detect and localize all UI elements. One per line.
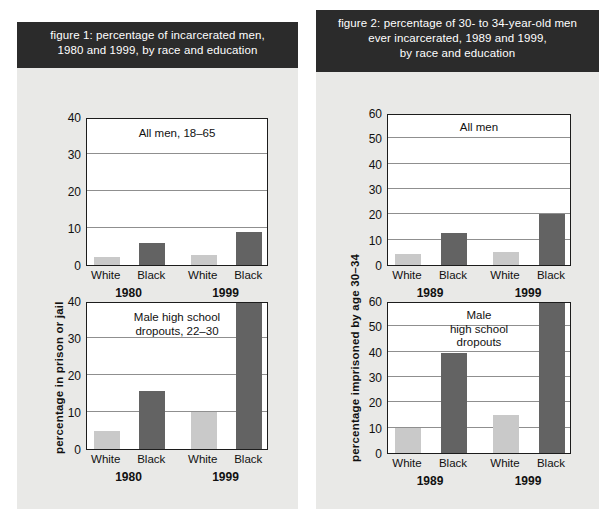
bar-black-1999 — [539, 214, 565, 265]
x-group-label: 1999 — [493, 286, 563, 300]
bar-black-1980 — [139, 391, 165, 449]
bar-black-1999 — [539, 302, 565, 453]
bar-black-1989 — [441, 233, 467, 265]
plot-area-figure-1-top: All men, 18–65 — [86, 118, 268, 266]
plot-caption-figure-2-top: All men — [388, 121, 570, 135]
gridline — [87, 153, 267, 154]
y-tick-label: 60 — [369, 295, 382, 309]
plot-area-figure-2-bottom: Malehigh schooldropouts — [387, 302, 571, 454]
chart-figure-2-bottom: Malehigh schooldropouts0102030405060Whit… — [387, 302, 571, 454]
bar-black-1989 — [441, 353, 467, 453]
y-tick-label: 10 — [68, 406, 81, 420]
y-axis-label-2: percentage imprisoned by age 30–34 — [349, 254, 361, 462]
figure-title-line: figure 2: percentage of 30- to 34-year-o… — [324, 16, 591, 31]
figure-panel-1: figure 1: percentage of incarcerated men… — [17, 22, 298, 509]
x-group-label: 1999 — [191, 286, 261, 300]
x-group-label: 1999 — [191, 470, 261, 484]
y-tick-label: 60 — [369, 107, 382, 121]
x-category-label: Black — [521, 457, 581, 469]
bar-white-1999 — [191, 412, 217, 449]
figure-title-line: 1980 and 1999, by race and education — [25, 43, 290, 58]
figure-title-line: ever incarcerated, 1989 and 1999, — [324, 31, 591, 46]
x-group-label: 1989 — [395, 286, 465, 300]
y-tick-label: 30 — [68, 148, 81, 162]
bar-black-1999 — [236, 302, 262, 449]
x-group-label: 1980 — [94, 286, 164, 300]
y-tick-label: 10 — [369, 234, 382, 248]
y-tick-label: 10 — [68, 222, 81, 236]
bar-white-1989 — [395, 428, 421, 453]
bar-white-1999 — [493, 415, 519, 453]
y-tick-label: 20 — [68, 369, 81, 383]
bar-white-1999 — [493, 252, 519, 265]
y-tick-label: 40 — [68, 295, 81, 309]
figures-page: figure 1: percentage of incarcerated men… — [0, 0, 611, 524]
y-axis-label-1: percentage in prison or jail — [53, 301, 65, 454]
bar-white-1989 — [395, 254, 421, 265]
y-tick-label: 50 — [369, 132, 382, 146]
gridline — [388, 163, 570, 164]
y-tick-label: 30 — [369, 183, 382, 197]
bar-white-1980 — [94, 431, 120, 450]
y-tick-label: 20 — [369, 208, 382, 222]
figure-title-line: figure 1: percentage of incarcerated men… — [25, 28, 290, 43]
y-tick-label: 40 — [369, 158, 382, 172]
chart-figure-2-top: All men0102030405060WhiteBlackWhiteBlack… — [387, 114, 571, 266]
bar-white-1999 — [191, 255, 217, 265]
y-tick-label: 50 — [369, 320, 382, 334]
x-category-label: Black — [423, 457, 483, 469]
x-category-label: Black — [218, 453, 278, 465]
x-group-label: 1989 — [395, 474, 465, 488]
plot-area-figure-1-bottom: Male high schooldropouts, 22–30 — [86, 302, 268, 450]
y-tick-label: 20 — [68, 185, 81, 199]
y-tick-label: 30 — [369, 371, 382, 385]
gridline — [87, 190, 267, 191]
gridline — [388, 137, 570, 138]
plot-caption-line: All men, 18–65 — [87, 127, 267, 141]
y-tick-label: 10 — [369, 422, 382, 436]
y-tick-label: 40 — [369, 346, 382, 360]
x-group-label: 1999 — [493, 474, 563, 488]
figure-title-line: by race and education — [324, 46, 591, 61]
x-category-label: Black — [423, 269, 483, 281]
bar-white-1980 — [94, 257, 120, 266]
y-tick-label: 20 — [369, 396, 382, 410]
figure-panel-2: figure 2: percentage of 30- to 34-year-o… — [316, 10, 599, 509]
y-tick-label: 30 — [68, 332, 81, 346]
x-category-label: Black — [218, 269, 278, 281]
figure-title-1: figure 1: percentage of incarcerated men… — [17, 22, 298, 68]
gridline — [388, 188, 570, 189]
gridline — [87, 227, 267, 228]
chart-figure-1-top: All men, 18–65010203040WhiteBlackWhiteBl… — [86, 118, 268, 266]
x-group-label: 1980 — [94, 470, 164, 484]
x-category-label: Black — [521, 269, 581, 281]
chart-figure-1-bottom: Male high schooldropouts, 22–30010203040… — [86, 302, 268, 450]
y-tick-label: 40 — [68, 111, 81, 125]
plot-area-figure-2-top: All men — [387, 114, 571, 266]
plot-caption-figure-1-top: All men, 18–65 — [87, 127, 267, 141]
bar-black-1999 — [236, 232, 262, 265]
bar-black-1980 — [139, 243, 165, 265]
plot-caption-line: All men — [388, 121, 570, 135]
figure-title-2: figure 2: percentage of 30- to 34-year-o… — [316, 10, 599, 72]
